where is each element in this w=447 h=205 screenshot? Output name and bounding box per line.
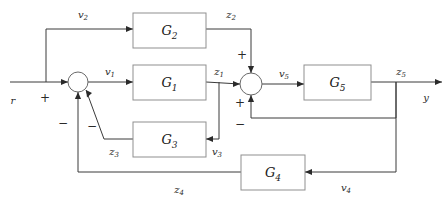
- signal-label-r: r: [11, 95, 17, 106]
- signal-label-z1: z1: [213, 66, 224, 79]
- arrow-into-sum1-diag: [86, 90, 92, 97]
- signal-label-v5: v5: [279, 68, 290, 81]
- sign-sum1-bottom-diagonal: −: [87, 119, 97, 133]
- sign-sum2-left: +: [235, 96, 245, 110]
- signal-label-v1: v1: [105, 66, 115, 79]
- signal-label-v2: v2: [78, 9, 89, 22]
- signal-label-y: y: [422, 92, 429, 103]
- summing-junction-sum1: [68, 72, 88, 92]
- signal-labels-layer: rv2z2v1z1v5z5yz3v3z4v4: [11, 9, 430, 197]
- wire-z1-tap-to-G3: [206, 82, 219, 139]
- block-g2: G2: [133, 13, 206, 48]
- sign-sum1-bottom: −: [58, 116, 68, 130]
- arrow-into-G3: [206, 136, 213, 142]
- arrow-into-G4: [305, 169, 312, 175]
- block-diagram-canvas: G2G1G3G4G5 rv2z2v1z1v5z5yz3v3z4v4 +−−++−: [0, 0, 447, 205]
- wires-layer: [10, 29, 442, 172]
- summing-junction-sum2: [240, 73, 262, 95]
- signal-label-z4: z4: [173, 184, 184, 197]
- arrow-into-G1: [126, 79, 133, 85]
- block-g4: G4: [241, 155, 305, 190]
- arrow-into-sum1-bottom: [75, 92, 81, 99]
- block-g3: G3: [133, 122, 206, 157]
- arrow-into-sum1-left: [61, 79, 68, 85]
- arrow-out-y: [435, 79, 442, 85]
- arrow-into-G5: [297, 81, 304, 87]
- block-g5: G5: [304, 65, 371, 100]
- signal-label-v3: v3: [212, 146, 223, 159]
- wire-tap-to-G2-branch: [46, 29, 133, 82]
- arrow-into-G2: [126, 26, 133, 32]
- sign-sum1-left: +: [40, 91, 50, 105]
- arrow-into-sum2-top: [248, 66, 254, 73]
- sign-sum2-top: +: [237, 48, 247, 62]
- signal-label-z5: z5: [395, 66, 406, 79]
- block-g1: G1: [133, 65, 206, 100]
- sign-sum2-bottom: −: [235, 117, 245, 131]
- signal-label-z2: z2: [225, 9, 236, 22]
- signal-label-z3: z3: [108, 146, 119, 159]
- arrow-into-sum2-left: [233, 81, 240, 87]
- block-diagram-figure: G2G1G3G4G5 rv2z2v1z1v5z5yz3v3z4v4 +−−++−: [0, 0, 447, 205]
- signal-label-v4: v4: [341, 182, 351, 195]
- arrow-into-sum2-bottom: [248, 95, 254, 102]
